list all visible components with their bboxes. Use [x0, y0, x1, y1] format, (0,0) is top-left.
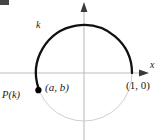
terminal-point-label: P(k) [2, 90, 20, 101]
figure-canvas [0, 0, 165, 140]
arc-label-k: k [36, 20, 40, 30]
arrow-right-icon [139, 69, 149, 76]
arrow-up-icon [81, 2, 88, 12]
initial-point-coordinates-label: (1, 0) [126, 80, 150, 91]
filled-dot-icon [35, 87, 41, 93]
terminal-point-coordinates-label: (a, b) [45, 82, 69, 93]
x-axis-label: x [150, 60, 154, 70]
unit-circle-figure: k P(k) (a, b) x (1, 0) [0, 0, 165, 140]
